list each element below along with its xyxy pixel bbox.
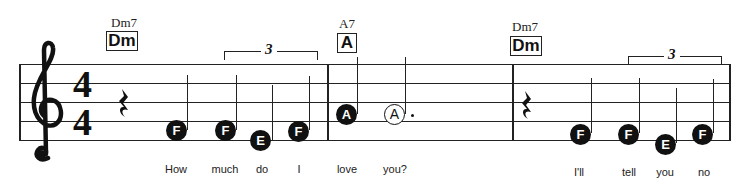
lyric-word: you bbox=[645, 166, 685, 178]
note-stem bbox=[309, 76, 310, 130]
barline-start bbox=[19, 64, 21, 141]
time-signature-bottom: 4 bbox=[73, 104, 92, 140]
note-stem bbox=[591, 78, 592, 133]
barline-2 bbox=[512, 64, 514, 141]
note-head: F bbox=[570, 124, 591, 145]
chord-name-3: Dm7 bbox=[505, 19, 545, 35]
chord-box-1: Dm bbox=[106, 31, 138, 51]
note-head: F bbox=[166, 120, 187, 141]
triplet-number-1: 3 bbox=[261, 41, 277, 58]
music-staff: 4 4 Dm7 Dm A7 A Dm7 Dm 3 3 F F E F A A F… bbox=[0, 0, 747, 193]
lyric-word: do bbox=[242, 163, 282, 175]
barline-1 bbox=[327, 64, 329, 141]
triplet-number-2: 3 bbox=[664, 46, 680, 63]
staff-line-4 bbox=[19, 121, 730, 122]
staff-line-2 bbox=[19, 83, 730, 84]
time-signature-top: 4 bbox=[73, 66, 92, 102]
note-head: E bbox=[655, 134, 676, 155]
augmentation-dot bbox=[411, 114, 414, 117]
lyric-word: I bbox=[279, 163, 319, 175]
staff-line-1 bbox=[19, 64, 730, 65]
quarter-rest-icon bbox=[117, 88, 131, 118]
note-head: F bbox=[692, 124, 713, 145]
note-head: F bbox=[288, 121, 309, 142]
quarter-rest-icon bbox=[520, 90, 534, 120]
lyric-word: tell bbox=[609, 166, 649, 178]
note-head: F bbox=[215, 120, 236, 141]
lyric-word: no bbox=[684, 166, 724, 178]
barline-end bbox=[729, 64, 731, 141]
lyric-word: much bbox=[205, 163, 245, 175]
chord-box-2: A bbox=[337, 33, 357, 53]
chord-name-2: A7 bbox=[327, 16, 367, 32]
note-stem bbox=[272, 85, 273, 140]
lyric-word: How bbox=[156, 163, 196, 175]
chord-name-1: Dm7 bbox=[104, 15, 144, 31]
note-stem bbox=[676, 88, 677, 143]
lyric-word: you? bbox=[375, 163, 415, 175]
note-stem bbox=[357, 57, 358, 114]
note-stem bbox=[187, 75, 188, 130]
lyric-word: I'll bbox=[559, 166, 599, 178]
note-stem bbox=[236, 75, 237, 130]
note-head: F bbox=[618, 124, 639, 145]
chord-box-3: Dm bbox=[510, 36, 542, 56]
lyric-word: love bbox=[327, 163, 367, 175]
note-head: E bbox=[250, 130, 271, 151]
note-head-half: A bbox=[384, 104, 405, 125]
note-stem bbox=[405, 57, 406, 114]
treble-clef-icon bbox=[28, 38, 64, 168]
note-head: A bbox=[336, 104, 357, 125]
note-stem bbox=[639, 78, 640, 133]
note-stem bbox=[713, 79, 714, 133]
